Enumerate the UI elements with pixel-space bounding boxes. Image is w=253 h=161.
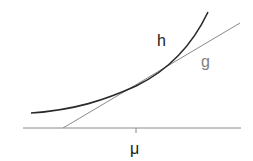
tangent-label-g: g: [201, 54, 210, 70]
curve-label-h: h: [157, 33, 166, 49]
tangent-line-g: [63, 23, 240, 128]
axis-label-mu: μ: [130, 141, 139, 157]
curve-h: [31, 12, 208, 113]
diagram-canvas: [0, 0, 253, 161]
